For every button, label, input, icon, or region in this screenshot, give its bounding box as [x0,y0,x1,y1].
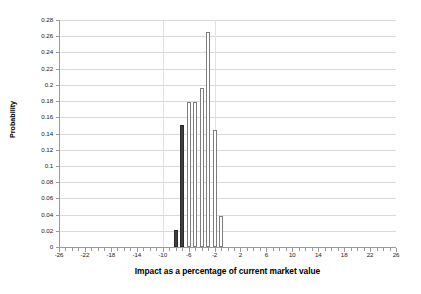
x-tick-label: 6 [265,252,268,258]
x-tick-mark [156,248,157,251]
x-tick-mark [228,248,229,251]
x-tick-label: -18 [107,252,116,258]
x-tick-mark [305,248,306,251]
x-tick-mark [150,248,151,251]
x-tick-mark [130,248,131,251]
x-tick-label: -22 [81,252,90,258]
x-tick-mark [286,248,287,251]
x-tick-label: 18 [341,252,348,258]
x-tick-mark [124,248,125,251]
x-tick-label: -2 [212,252,217,258]
x-tick-mark [91,248,92,251]
x-tick-label: 10 [289,252,296,258]
x-tick-mark [182,248,183,251]
x-tick-mark [234,248,235,251]
x-tick-label: -26 [55,252,64,258]
x-tick-mark [351,248,352,251]
x-tick-label: 26 [393,252,400,258]
x-axis-title: Impact as a percentage of current market… [59,266,396,276]
x-tick-mark [331,248,332,251]
x-tick-label: 22 [367,252,374,258]
x-tick-label: -10 [158,252,167,258]
x-tick-mark [176,248,177,251]
x-tick-mark [195,248,196,251]
x-tick-mark [72,248,73,251]
x-tick-mark [357,248,358,251]
x-tick-mark [169,248,170,251]
x-tick-mark [221,248,222,251]
x-tick-mark [143,248,144,251]
x-tick-label: 14 [315,252,322,258]
chart-container: 00.020.040.060.080.10.120.140.160.180.20… [0,0,421,294]
x-tick-mark [383,248,384,251]
x-tick-mark [78,248,79,251]
x-tick-mark [364,248,365,251]
x-tick-mark [377,248,378,251]
x-tick-mark [247,248,248,251]
x-tick-mark [104,248,105,251]
y-axis-title: Probability [8,75,17,165]
x-axis-tick-labels: -26-22-18-14-10-6-2261014182226 [0,0,421,294]
x-tick-mark [390,248,391,251]
x-tick-mark [325,248,326,251]
x-tick-mark [338,248,339,251]
x-tick-mark [208,248,209,251]
x-tick-mark [98,248,99,251]
x-tick-mark [273,248,274,251]
x-tick-mark [312,248,313,251]
x-tick-label: 2 [239,252,242,258]
x-tick-mark [253,248,254,251]
x-tick-mark [65,248,66,251]
x-tick-label: -14 [132,252,141,258]
x-tick-mark [279,248,280,251]
x-tick-mark [202,248,203,251]
x-tick-label: -6 [186,252,191,258]
x-tick-mark [260,248,261,251]
x-tick-mark [117,248,118,251]
x-tick-mark [299,248,300,251]
